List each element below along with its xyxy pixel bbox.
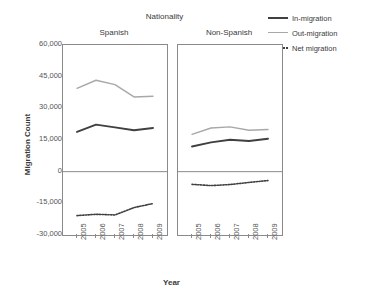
x-tick-mark <box>248 234 249 238</box>
x-tick-label: 2008 <box>251 223 260 240</box>
y-tick-label: 0 <box>18 166 62 175</box>
x-tick-label: 2005 <box>79 223 88 240</box>
plot-area-non-spanish <box>178 45 282 235</box>
series-line-in-migration <box>192 139 268 147</box>
y-tick-label: -15,000 <box>18 197 62 206</box>
plot-panel-non-spanish <box>177 44 283 236</box>
y-tick-label: 60,000 <box>18 39 62 48</box>
legend-label-in-migration: In-migration <box>292 14 332 23</box>
legend-label-out-migration: Out-migration <box>292 29 337 38</box>
x-tick-label: 2007 <box>117 223 126 240</box>
chart-figure: In-migration Out-migration Net migration… <box>0 0 365 300</box>
x-tick-mark <box>152 234 153 238</box>
x-tick-mark <box>229 234 230 238</box>
legend-label-net-migration: Net migration <box>292 44 337 53</box>
series-line-net-migration <box>77 204 153 216</box>
x-tick-label: 2008 <box>136 223 145 240</box>
series-line-out-migration <box>192 127 268 134</box>
x-tick-mark <box>267 234 268 238</box>
x-tick-mark <box>114 234 115 238</box>
plot-panel-spanish <box>62 44 168 236</box>
x-tick-mark <box>133 234 134 238</box>
x-tick-label: 2007 <box>232 223 241 240</box>
x-tick-label: 2005 <box>194 223 203 240</box>
plot-area-spanish <box>63 45 167 235</box>
x-tick-label: 2006 <box>98 223 107 240</box>
x-tick-label: 2009 <box>155 223 164 240</box>
legend-item-out-migration: Out-migration <box>268 27 364 39</box>
facet-label-spanish: Spanish <box>62 28 166 37</box>
y-tick-label: 30,000 <box>18 102 62 111</box>
y-tick-label: -30,000 <box>18 229 62 238</box>
series-line-in-migration <box>77 125 153 132</box>
legend-swatch-in-migration-icon <box>268 13 288 23</box>
x-axis-label: Year <box>62 278 281 287</box>
x-tick-mark <box>191 234 192 238</box>
y-tick-label: 45,000 <box>18 71 62 80</box>
x-tick-label: 2009 <box>270 223 279 240</box>
x-tick-mark <box>76 234 77 238</box>
x-tick-mark <box>95 234 96 238</box>
x-tick-mark <box>210 234 211 238</box>
legend-item-in-migration: In-migration <box>268 12 364 24</box>
y-axis-ticks: 60,00045,00030,00015,0000-15,000-30,000 <box>14 0 62 300</box>
chart-title: Nationality <box>62 12 267 21</box>
facet-label-non-spanish: Non-Spanish <box>177 28 281 37</box>
series-line-out-migration <box>77 80 153 97</box>
series-line-net-migration <box>192 181 268 186</box>
x-tick-label: 2006 <box>213 223 222 240</box>
y-tick-label: 15,000 <box>18 134 62 143</box>
